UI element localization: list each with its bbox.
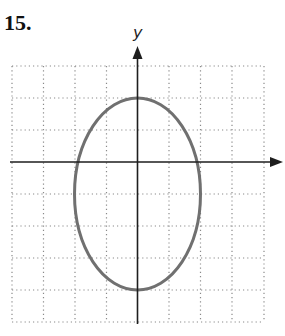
x-axis-arrow-icon xyxy=(270,157,283,167)
y-axis xyxy=(133,46,143,324)
x-axis xyxy=(10,157,283,167)
y-axis-arrow-icon xyxy=(133,46,143,59)
coordinate-plane: y xyxy=(0,0,285,336)
y-axis-label: y xyxy=(132,23,143,42)
